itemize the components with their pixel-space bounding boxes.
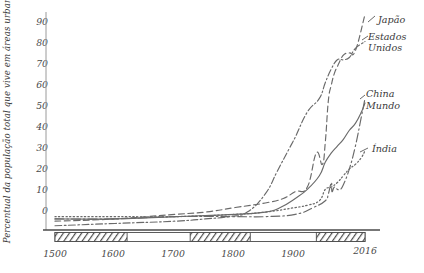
series-path-china xyxy=(55,98,365,219)
series-paths-group xyxy=(55,14,375,225)
axes-group xyxy=(43,12,380,230)
timeline-segment-2 xyxy=(190,233,250,242)
timeline-segment-0 xyxy=(55,233,127,242)
series-path-mundo xyxy=(55,103,365,219)
timeline-segment-4 xyxy=(316,233,365,242)
urbanization-line-chart: Percentual da população total que vive e… xyxy=(0,0,424,273)
series-leader-line-1 xyxy=(362,36,368,40)
series-leader-line-0 xyxy=(368,16,375,22)
series-path-japão xyxy=(55,14,365,221)
timeline-bar-group xyxy=(55,233,365,242)
series-path-índia xyxy=(55,151,365,217)
series-leader-line-3 xyxy=(360,148,368,152)
chart-canvas xyxy=(0,0,424,273)
series-path-estados-unidos xyxy=(55,42,365,226)
series-leader-line-2 xyxy=(360,95,365,99)
